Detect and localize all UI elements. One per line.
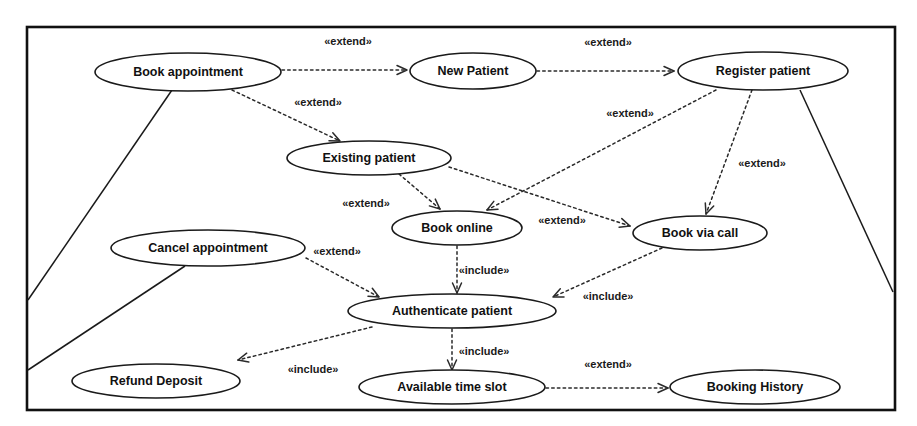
use-case-book_via_call[interactable]: Book via call	[633, 216, 767, 250]
relationship-stereotype-label: «extend»	[606, 107, 654, 119]
relationship-stereotype-label: «extend»	[738, 157, 786, 169]
use-case-available_time_slot[interactable]: Available time slot	[359, 370, 545, 404]
use-case-cancel_appointment[interactable]: Cancel appointment	[111, 230, 305, 266]
use-case-book_appointment[interactable]: Book appointment	[95, 53, 281, 91]
use-case-label: Cancel appointment	[148, 241, 268, 255]
use-case-diagram: Book appointmentNew PatientRegister pati…	[0, 0, 917, 426]
relationship-stereotype-label: «extend»	[584, 358, 632, 370]
relationship-stereotype-label: «extend»	[538, 214, 586, 226]
use-case-authenticate_patient[interactable]: Authenticate patient	[348, 294, 556, 328]
use-case-label: Refund Deposit	[110, 374, 203, 388]
relationship-stereotype-label: «extend»	[342, 197, 390, 209]
use-case-existing_patient[interactable]: Existing patient	[287, 141, 451, 175]
use-case-label: Existing patient	[322, 151, 416, 165]
use-case-label: Authenticate patient	[392, 304, 513, 318]
use-case-register_patient[interactable]: Register patient	[678, 52, 848, 90]
relationship-stereotype-label: «include»	[459, 345, 510, 357]
use-case-label: Booking History	[707, 380, 804, 394]
use-case-label: Available time slot	[397, 380, 507, 394]
relationship-stereotype-label: «extend»	[324, 35, 372, 47]
use-case-label: Book via call	[662, 226, 738, 240]
use-case-refund_deposit[interactable]: Refund Deposit	[72, 364, 240, 398]
use-case-booking_history[interactable]: Booking History	[670, 370, 840, 404]
use-case-label: Register patient	[716, 64, 811, 78]
relationship-stereotype-label: «extend»	[294, 96, 342, 108]
relationship-stereotype-label: «include»	[288, 363, 339, 375]
uml-canvas: Book appointmentNew PatientRegister pati…	[0, 0, 917, 426]
relationship-stereotype-label: «include»	[459, 264, 510, 276]
use-case-new_patient[interactable]: New Patient	[410, 53, 536, 89]
use-case-label: Book appointment	[133, 65, 244, 79]
relationship-stereotype-label: «extend»	[584, 36, 632, 48]
use-case-label: New Patient	[438, 64, 510, 78]
use-case-label: Book online	[421, 221, 493, 235]
relationship-stereotype-label: «extend»	[313, 245, 361, 257]
relationship-stereotype-label: «include»	[583, 290, 634, 302]
use-case-book_online[interactable]: Book online	[392, 211, 522, 245]
